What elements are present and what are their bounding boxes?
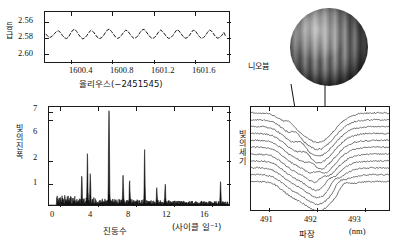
periodogram-tickmark (136, 203, 137, 207)
light-curve-ytick-2: 2.60 (18, 49, 33, 58)
light-curve-tickmark (227, 38, 231, 39)
periodogram-plot (49, 107, 229, 205)
light-curve-x-axis-title: 율리우스(−2451545) (79, 80, 163, 89)
spectral-line-profile (251, 119, 389, 150)
periodogram-tickmark (227, 120, 231, 121)
line-profiles-x-axis-title: 파장 (299, 230, 315, 239)
periodogram-xtick-4: 16 (200, 210, 209, 219)
periodogram-tickmark (98, 107, 99, 111)
light-curve-tickmark (45, 54, 49, 55)
light-curve-ytick-0: 2.56 (18, 16, 33, 25)
light-curve-xtick-3: 1601.6 (192, 66, 215, 75)
light-curve-tickmark (112, 60, 113, 64)
periodogram-tickmark (49, 184, 53, 185)
pulsating-star-sphere (290, 8, 368, 86)
periodogram-tickmark (49, 120, 53, 121)
spectral-line-profile (251, 181, 389, 210)
light-curve-plot (45, 12, 229, 62)
periodogram-xtick-1: 4 (88, 210, 92, 219)
periodogram-tickmark (174, 107, 175, 111)
periodogram-tickmark (227, 112, 231, 113)
light-curve-y-axis-title: 등급 (4, 22, 14, 40)
periodogram-ytick-1: 1 (33, 178, 37, 187)
line-profiles-tickmark (365, 107, 366, 111)
periodogram-x-axis-units: (사이클 일⁻¹) (172, 223, 221, 232)
line-profiles-tickmark (269, 208, 270, 212)
periodogram-ytick-7: 7 (33, 104, 37, 113)
star-panel: 니오븀 (236, 0, 402, 96)
periodogram-tickmark (212, 107, 213, 111)
line-profiles-xtick-1: 492 (304, 215, 317, 224)
periodogram-tickmark (60, 203, 61, 207)
spectral-line-profile (251, 160, 389, 191)
spectral-line-profile (251, 133, 389, 163)
periodogram-tickmark (98, 203, 99, 207)
periodogram-tickmark (212, 203, 213, 207)
line-profiles-axes (250, 106, 390, 211)
light-curve-axes (44, 11, 230, 63)
line-profiles-y-axis-title: 빛의 세기 (237, 130, 247, 166)
periodogram-tickmark (136, 107, 137, 111)
light-curve-panel: 등급 2.56 2.58 2.60 1600.4 1600.8 1601.2 1… (0, 0, 236, 96)
periodogram-tickmark (49, 112, 53, 113)
line-profiles-tickmark (269, 107, 270, 111)
periodogram-tickmark (174, 203, 175, 207)
line-profiles-x-axis-units: (nm) (349, 227, 366, 236)
light-curve-xtick-1: 1600.8 (110, 66, 133, 75)
periodogram-x-axis-title: 진동수 (103, 227, 127, 236)
light-curve-tickmark (45, 22, 49, 23)
light-curve-tickmark (154, 60, 155, 64)
periodogram-xtick-0: 0 (50, 210, 54, 219)
line-profiles-tickmark (317, 208, 318, 212)
periodogram-tickmark (60, 107, 61, 111)
light-curve-tickmark (45, 38, 49, 39)
light-curve-tickmark (195, 60, 196, 64)
light-curve-tickmark (227, 54, 231, 55)
periodogram-ytick-2: 2 (33, 153, 37, 162)
light-curve-xtick-2: 1601.2 (151, 66, 174, 75)
line-profiles-plot (251, 107, 389, 210)
light-curve-tickmark (227, 22, 231, 23)
line-profiles-tickmark (365, 208, 366, 212)
star-label: 니오븀 (248, 60, 269, 71)
figure-root: 등급 2.56 2.58 2.60 1600.4 1600.8 1601.2 1… (0, 0, 402, 249)
periodogram-tickmark (227, 184, 231, 185)
light-curve-tickmark (154, 12, 155, 16)
light-curve-xtick-0: 1600.4 (69, 66, 92, 75)
periodogram-xtick-2: 8 (126, 210, 130, 219)
periodogram-panel: 빛의 진폭 7 6 2 1 0 4 8 12 16 진동수 (사이클 일⁻¹) (0, 96, 236, 249)
line-profiles-xtick-2: 493 (348, 215, 361, 224)
light-curve-tickmark (71, 12, 72, 16)
periodogram-xtick-3: 12 (162, 210, 171, 219)
light-curve-ytick-1: 2.58 (18, 32, 33, 41)
light-curve-tickmark (112, 12, 113, 16)
periodogram-tickmark (49, 161, 53, 162)
periodogram-axes (48, 106, 230, 206)
line-profiles-tickmark (317, 107, 318, 111)
periodogram-y-axis-title: 빛의 진폭 (14, 124, 24, 160)
periodogram-tickmark (227, 161, 231, 162)
line-profiles-panel: 빛의 세기 491 492 493 파장 (nm) (236, 96, 402, 249)
light-curve-tickmark (71, 60, 72, 64)
spectral-line-profile (251, 112, 389, 143)
periodogram-ytick-6: 6 (33, 127, 37, 136)
light-curve-tickmark (195, 12, 196, 16)
line-profiles-xtick-0: 491 (260, 215, 273, 224)
